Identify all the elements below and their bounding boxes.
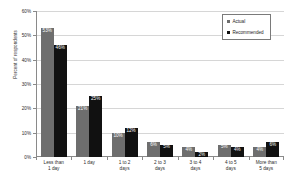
legend-swatch-icon	[227, 20, 230, 23]
legend: ActualRecommended	[222, 14, 271, 40]
x-axis-label-line: days	[107, 166, 142, 172]
bar-group: 53%46%	[36, 11, 71, 157]
y-tick-label: 40%	[22, 57, 31, 62]
bar-recommended[interactable]: 46%	[54, 45, 67, 157]
bar-group: 6%5%	[142, 11, 177, 157]
bar-value-label: 10%	[113, 134, 122, 139]
bar-actual[interactable]: 5%	[218, 145, 231, 157]
bar-actual[interactable]: 4%	[253, 147, 266, 157]
bar-value-label: 5%	[221, 145, 228, 150]
bar-group: 10%12%	[107, 11, 142, 157]
bar-value-label: 4%	[256, 148, 263, 153]
bar-value-label: 25%	[91, 97, 100, 102]
bar-value-label: 2%	[199, 153, 206, 158]
x-axis-label: 1 to 2days	[107, 160, 142, 172]
bar-value-label: 12%	[126, 129, 135, 134]
y-tick-label: 10%	[22, 130, 31, 135]
legend-label: Actual	[232, 19, 245, 24]
y-tick-label: 60%	[22, 9, 31, 14]
x-axis-label-line: days	[213, 166, 248, 172]
x-axis-label: Less than1 day	[36, 160, 71, 172]
legend-label: Recommended	[232, 30, 263, 35]
x-axis-label: 3 to 4days	[178, 160, 213, 172]
x-axis-label: 2 to 3days	[142, 160, 177, 172]
y-tick-label: 0%	[24, 155, 31, 160]
x-axis-label-line: 5 days	[249, 166, 284, 172]
bar-value-label: 6%	[150, 143, 157, 148]
bar-actual[interactable]: 4%	[182, 147, 195, 157]
x-axis-label: 1 day	[71, 160, 106, 172]
bar-recommended[interactable]: 6%	[266, 142, 279, 157]
bar-value-label: 21%	[78, 107, 87, 112]
bar-recommended[interactable]: 25%	[89, 96, 102, 157]
bar-value-label: 46%	[56, 46, 65, 51]
legend-item[interactable]: Recommended	[227, 30, 264, 35]
bar-actual[interactable]: 10%	[112, 133, 125, 157]
bar-value-label: 4%	[186, 148, 193, 153]
bar-actual[interactable]: 6%	[147, 142, 160, 157]
bar-value-label: 4%	[234, 148, 241, 153]
x-axis-label-line: 1 day	[71, 160, 106, 166]
bar-recommended[interactable]: 12%	[125, 128, 138, 157]
x-axis-labels: Less than1 day1 day1 to 2days2 to 3days3…	[36, 160, 284, 172]
x-axis-label-line: 1 day	[36, 166, 71, 172]
bar-group: 4%2%	[178, 11, 213, 157]
x-axis-label-line: days	[142, 166, 177, 172]
bar-recommended[interactable]: 4%	[231, 147, 244, 157]
bar-value-label: 53%	[43, 29, 52, 34]
x-axis-label-line: days	[178, 166, 213, 172]
bar-chart: Percent of respondents 0%10%20%30%40%50%…	[0, 0, 294, 188]
x-axis-label: 4 to 5days	[213, 160, 248, 172]
legend-swatch-icon	[227, 31, 230, 34]
legend-item[interactable]: Actual	[227, 19, 264, 24]
bar-actual[interactable]: 21%	[76, 106, 89, 157]
bar-recommended[interactable]: 5%	[160, 145, 173, 157]
bar-value-label: 6%	[269, 143, 276, 148]
bar-actual[interactable]: 53%	[41, 28, 54, 157]
bar-recommended[interactable]: 2%	[195, 152, 208, 157]
x-axis-label: More than5 days	[249, 160, 284, 172]
bar-value-label: 5%	[163, 145, 170, 150]
y-tick-label: 50%	[22, 33, 31, 38]
y-tick-label: 20%	[22, 106, 31, 111]
y-axis-title: Percent of respondents	[13, 0, 18, 110]
bar-group: 21%25%	[71, 11, 106, 157]
y-tick-label: 30%	[22, 82, 31, 87]
